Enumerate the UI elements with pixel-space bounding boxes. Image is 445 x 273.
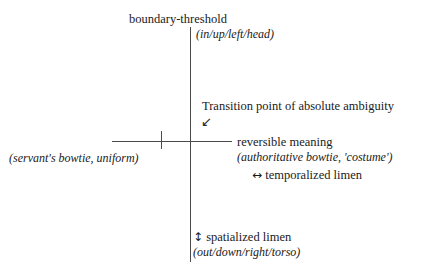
temporalized-limen-label: temporalized limen — [265, 168, 362, 182]
down-left-arrow-icon: ↙ — [201, 114, 212, 131]
horizontal-axis-tick — [161, 131, 162, 149]
authoritative-bowtie-label: (authoritative bowtie, 'costume') — [237, 150, 392, 165]
upper-pole-attributes-label: (in/up/left/head) — [196, 27, 274, 42]
boundary-threshold-label: boundary-threshold — [129, 11, 227, 27]
lower-pole-attributes-label: (out/down/right/torso) — [193, 245, 300, 260]
left-pole-attributes-label: (servant's bowtie, uniform) — [9, 151, 139, 166]
transition-point-label: Transition point of absolute ambiguity — [202, 98, 394, 114]
diagram-canvas: boundary-threshold (in/up/left/head) Tra… — [0, 0, 445, 273]
left-right-arrow-icon: ↔ — [252, 168, 262, 182]
spatialized-limen-label: spatialized limen — [206, 230, 291, 244]
temporalized-limen-row: ↔ temporalized limen — [252, 167, 362, 183]
spatialized-limen-row: ↕ spatialized limen — [193, 229, 291, 245]
vertical-axis-line — [190, 27, 191, 262]
horizontal-axis-line — [112, 141, 232, 142]
up-down-arrow-icon: ↕ — [193, 230, 203, 244]
reversible-meaning-label: reversible meaning — [237, 134, 332, 150]
